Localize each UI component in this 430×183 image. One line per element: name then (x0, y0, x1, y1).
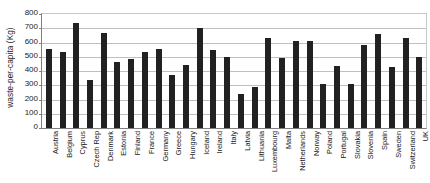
x-label-slot: Switzerland (398, 129, 412, 183)
x-label-slot: Cyprus (68, 129, 82, 183)
bar (224, 57, 230, 128)
bar (293, 41, 299, 128)
y-tick-label: 100 (18, 109, 38, 117)
bar (142, 52, 148, 128)
bar (252, 87, 258, 128)
bar-slot (152, 14, 166, 128)
x-label-slot: Czech Rep (82, 129, 96, 183)
x-label-slot: Norway (302, 129, 316, 183)
x-label-slot: France (137, 129, 151, 183)
x-label-slot: Latvia (233, 129, 247, 183)
bar-slot (124, 14, 138, 128)
bar-slot (344, 14, 358, 128)
bar (101, 33, 107, 128)
y-tick-label: 700 (18, 23, 38, 31)
y-tick-label: 500 (18, 52, 38, 60)
x-label-slot: Austria (41, 129, 55, 183)
x-label-slot: Estonia (110, 129, 124, 183)
x-tick-label: UK (421, 131, 430, 141)
bar (334, 66, 340, 128)
x-label-slot: Ireland (206, 129, 220, 183)
x-label-slot: Sweden (384, 129, 398, 183)
plot-area (41, 13, 427, 129)
bar (114, 62, 120, 128)
bar (361, 45, 367, 128)
bar-slot (316, 14, 330, 128)
bar (279, 58, 285, 128)
bar-slot (220, 14, 234, 128)
bar-slot (358, 14, 372, 128)
bar-slot (248, 14, 262, 128)
y-tick-label: 800 (18, 9, 38, 17)
y-tick-label: 200 (18, 95, 38, 103)
x-label-slot: Malta (274, 129, 288, 183)
bar (197, 28, 203, 128)
bar-slot (399, 14, 413, 128)
bar (169, 75, 175, 128)
x-label-slot: Germany (151, 129, 165, 183)
x-label-slot: Hungary (178, 129, 192, 183)
bar-slot (83, 14, 97, 128)
bar-slot (289, 14, 303, 128)
y-axis-title: waste-per-capita (Kg) (0, 0, 20, 135)
y-axis-title-text: waste-per-capita (Kg) (6, 27, 15, 107)
y-tick-label: 0 (18, 123, 38, 131)
x-label-slot: Lithuania (247, 129, 261, 183)
bar-slot (69, 14, 83, 128)
bar-slot (275, 14, 289, 128)
bar (348, 84, 354, 128)
bar (416, 57, 422, 128)
x-label-slot: Italy (219, 129, 233, 183)
x-label-slot: Spain (370, 129, 384, 183)
x-label-slot: Netherlands (288, 129, 302, 183)
bar (265, 38, 271, 128)
x-label-slot: Denmark (96, 129, 110, 183)
bar-slot (234, 14, 248, 128)
bar-slot (412, 14, 426, 128)
bar-series (42, 14, 426, 128)
bar-slot (165, 14, 179, 128)
y-tick-label: 300 (18, 80, 38, 88)
x-label-slot: Belgium (55, 129, 69, 183)
x-label-slot: Slovenia (357, 129, 371, 183)
bar (73, 23, 79, 128)
y-tick-label: 600 (18, 38, 38, 46)
x-label-slot: Greece (164, 129, 178, 183)
bar (183, 65, 189, 128)
x-label-slot: Portugal (329, 129, 343, 183)
x-label-slot: UK (411, 129, 425, 183)
y-tick-label: 400 (18, 66, 38, 74)
bar (60, 52, 66, 128)
bar (307, 41, 313, 128)
bar-slot (179, 14, 193, 128)
bar (128, 59, 134, 128)
bar-slot (371, 14, 385, 128)
bar-slot (111, 14, 125, 128)
bar (403, 38, 409, 128)
bar (389, 67, 395, 128)
bar-slot (138, 14, 152, 128)
x-label-slot: Slovakia (343, 129, 357, 183)
y-axis-tick-labels: 8007006005004003002001000 (18, 8, 38, 129)
x-label-slot: Luxembourg (261, 129, 275, 183)
bar (210, 50, 216, 128)
bar-slot (207, 14, 221, 128)
bar-slot (97, 14, 111, 128)
bar-slot (193, 14, 207, 128)
bar-slot (385, 14, 399, 128)
x-label-slot: Finland (123, 129, 137, 183)
bar-slot (330, 14, 344, 128)
bar-slot (303, 14, 317, 128)
bar (375, 34, 381, 128)
bar-slot (56, 14, 70, 128)
x-label-slot: Poland (315, 129, 329, 183)
bar (320, 84, 326, 128)
x-axis-tick-labels: AustriaBelgiumCyprusCzech RepDenmarkEsto… (41, 129, 425, 183)
x-label-slot: Iceland (192, 129, 206, 183)
bar-slot (42, 14, 56, 128)
bar (46, 49, 52, 128)
bar-chart: waste-per-capita (Kg) 800700600500400300… (0, 0, 430, 183)
bar (156, 49, 162, 128)
bar-slot (262, 14, 276, 128)
bar (238, 94, 244, 128)
